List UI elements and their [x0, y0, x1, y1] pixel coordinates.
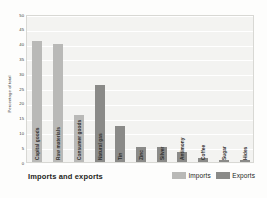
legend-label-imports: Imports [188, 172, 210, 179]
bar-category-label: Sugar [222, 146, 227, 160]
bar-group: Raw materials [48, 16, 69, 162]
bar [240, 160, 250, 162]
bar-category-label: Capital goods [35, 128, 40, 160]
legend-swatch-exports-icon [216, 172, 230, 179]
chart-figure: 50454035302520151050 Percentage of total… [0, 0, 267, 198]
y-axis-title: Percentage of total [5, 20, 15, 168]
bar-category-label: Antimony [180, 137, 185, 160]
bar-series-group: Capital goodsRaw materialsConsumer goods… [27, 16, 253, 162]
bar-category-label: Consumer goods [77, 120, 82, 160]
plot-area: Capital goodsRaw materialsConsumer goods… [26, 15, 254, 163]
legend-label-exports: Exports [232, 172, 255, 179]
bar-group: Hides [234, 16, 255, 162]
bar-group: Silver [151, 16, 172, 162]
chart-legend: Imports Exports [172, 172, 255, 179]
legend-swatch-imports-icon [172, 172, 186, 179]
bar-group: Zinc [131, 16, 152, 162]
bar-group: Coffee [193, 16, 214, 162]
chart-title: Imports and exports [28, 172, 103, 181]
bar-group: Consumer goods [68, 16, 89, 162]
bar-group: Antimony [172, 16, 193, 162]
legend-item-exports: Exports [216, 172, 255, 179]
bar-group: Tin [110, 16, 131, 162]
bar-category-label: Tin [118, 153, 123, 160]
bar-category-label: Natural gas [98, 133, 103, 160]
gridline [27, 164, 253, 165]
bar-group: Natural gas [89, 16, 110, 162]
bar-category-label: Raw materials [56, 127, 61, 160]
bar-category-label: Zinc [139, 150, 144, 160]
y-tick-label: 50 [10, 13, 24, 18]
bar-category-label: Silver [160, 147, 165, 160]
legend-item-imports: Imports [172, 172, 211, 179]
bar-group: Capital goods [27, 16, 48, 162]
bar-group: Sugar [214, 16, 235, 162]
bar-category-label: Coffee [201, 145, 206, 160]
bar-category-label: Hides [243, 147, 248, 160]
